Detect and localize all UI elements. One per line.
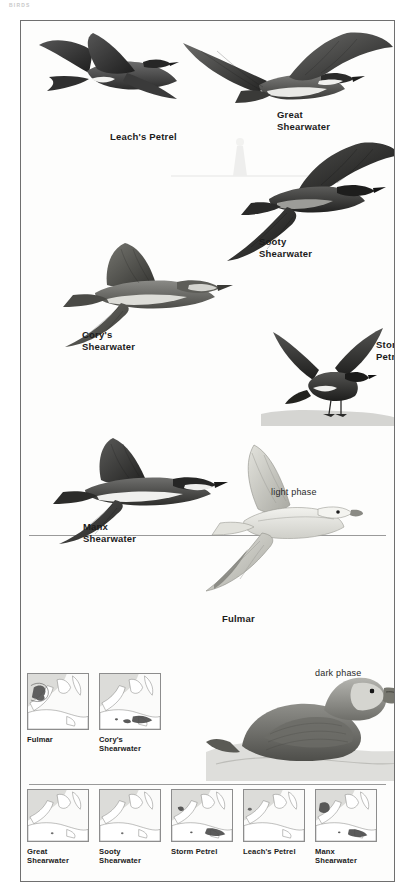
label-light-phase: light phase: [271, 487, 317, 499]
map-cell-sooty-shearwater[interactable]: [99, 789, 161, 842]
label-storm-petrel: Storm Petrel: [376, 339, 394, 362]
map-cell-great-shearwater[interactable]: [27, 789, 89, 842]
map-caption-storm-petrel: Storm Petrel: [171, 847, 217, 856]
map-storm-petrel: [171, 789, 233, 842]
map-caption-great-shearwater: Great Shearwater: [27, 847, 69, 865]
map-cell-fulmar[interactable]: [27, 673, 89, 730]
map-cell-manx-shearwater[interactable]: [315, 789, 377, 842]
map-cell-corys-shearwater[interactable]: [99, 673, 161, 730]
map-caption-fulmar: Fulmar: [27, 735, 53, 744]
label-fulmar: Fulmar: [222, 613, 255, 625]
bird-illustration-storm-petrel: [261, 326, 394, 426]
bird-illustration-corys-shearwater: [43, 241, 243, 356]
map-great-shearwater: [27, 789, 89, 842]
map-caption-sooty-shearwater: Sooty Shearwater: [99, 847, 141, 865]
label-dark-phase: dark phase: [315, 668, 362, 680]
map-manx-shearwater: [315, 789, 377, 842]
label-great-shearwater: Great Shearwater: [277, 109, 330, 132]
label-leachs-petrel: Leach's Petrel: [110, 131, 177, 143]
bird-illustration-fulmar-light-phase: [186, 439, 381, 604]
map-caption-manx-shearwater: Manx Shearwater: [315, 847, 357, 865]
map-leachs-petrel: [243, 789, 305, 842]
label-manx-shearwater: Manx Shearwater: [83, 521, 136, 544]
page-header: BIRDS: [9, 2, 31, 8]
bird-illustration-fulmar-dark-phase: [206, 646, 394, 781]
map-caption-leachs-petrel: Leach's Petrel: [243, 847, 296, 856]
plate-inner: Leach's Petrel Great Shearwater Sooty Sh…: [21, 21, 394, 881]
bird-plate: Leach's Petrel Great Shearwater Sooty Sh…: [20, 20, 395, 882]
map-sooty-shearwater: [99, 789, 161, 842]
label-sooty-shearwater: Sooty Shearwater: [259, 236, 312, 259]
map-cell-leachs-petrel[interactable]: [243, 789, 305, 842]
label-corys-shearwater: Cory's Shearwater: [82, 329, 135, 352]
map-caption-corys-shearwater: Cory's Shearwater: [99, 735, 141, 753]
map-row-2: Great Shearwater: [21, 785, 394, 881]
map-fulmar: [27, 673, 89, 730]
map-corys-shearwater: [99, 673, 161, 730]
map-cell-storm-petrel[interactable]: [171, 789, 233, 842]
